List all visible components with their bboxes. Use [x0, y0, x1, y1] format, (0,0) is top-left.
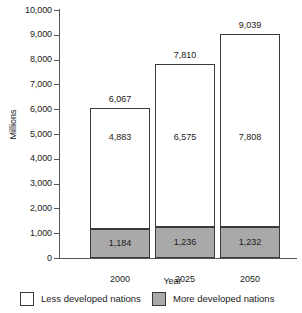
bar-value-label-more-developed: 1,236	[155, 238, 215, 247]
bar-value-label-less-developed: 4,883	[90, 133, 150, 142]
y-axis-tick-label-text: 9,000	[6, 30, 52, 39]
legend-swatch-icon	[152, 292, 166, 306]
y-axis-tick-label: 10,000	[0, 6, 52, 15]
bar-value-label-more-developed: 1,232	[220, 238, 280, 247]
bar-value-label-less-developed: 7,808	[220, 133, 280, 142]
bar-total-label: 6,067	[90, 95, 150, 104]
y-axis-tick-label-text: 7,000	[6, 80, 52, 89]
y-axis-tick-label: 2,000	[0, 204, 52, 213]
legend-item[interactable]: Less developed nations	[20, 290, 141, 308]
y-axis-title: Millions	[9, 90, 18, 160]
bar-segment-less-developed[interactable]	[90, 108, 150, 229]
y-axis-tick-label: 7,000	[0, 80, 52, 89]
y-axis-tick-label-text: 2,000	[6, 204, 52, 213]
bar-segment-less-developed[interactable]	[220, 34, 280, 228]
bar-segment-less-developed[interactable]	[155, 64, 215, 227]
legend-item[interactable]: More developed nations	[152, 290, 274, 308]
y-axis-tick-label: 0	[0, 254, 52, 263]
chart-legend: Less developed nationsMore developed nat…	[0, 290, 302, 313]
y-axis-tick-label: 3,000	[0, 179, 52, 188]
x-axis-line	[59, 258, 297, 259]
bar-group[interactable]: 6,0674,8831,1842000	[90, 10, 150, 258]
legend-swatch-icon	[20, 292, 34, 306]
y-axis-tick-label: 8,000	[0, 55, 52, 64]
y-axis-tick-label-text: 0	[6, 254, 52, 263]
y-axis-tick-label: 1,000	[0, 229, 52, 238]
legend-item-label: Less developed nations	[41, 294, 141, 304]
y-axis-tick-label-text: 3,000	[6, 179, 52, 188]
bar-value-label-more-developed: 1,184	[90, 239, 150, 248]
bar-value-label-less-developed: 6,575	[155, 133, 215, 142]
bar-group[interactable]: 7,8106,5751,2362025	[155, 10, 215, 258]
bar-total-label: 9,039	[220, 21, 280, 30]
x-axis-title: Year	[60, 277, 285, 286]
legend-item-label: More developed nations	[173, 294, 274, 304]
bar-group[interactable]: 9,0397,8081,2322050	[220, 10, 280, 258]
y-axis-tick-label-text: 8,000	[6, 55, 52, 64]
y-axis-tick-label-text: 10,000	[6, 6, 52, 15]
bar-total-label: 7,810	[155, 51, 215, 60]
y-axis-tick-label: 9,000	[0, 30, 52, 39]
y-axis-tick-label-text: 1,000	[6, 229, 52, 238]
plot-area: 6,0674,8831,18420007,8106,5751,23620259,…	[60, 10, 285, 258]
stacked-bar-chart: 10,0009,0008,0007,0006,0005,0004,0003,00…	[0, 0, 302, 313]
